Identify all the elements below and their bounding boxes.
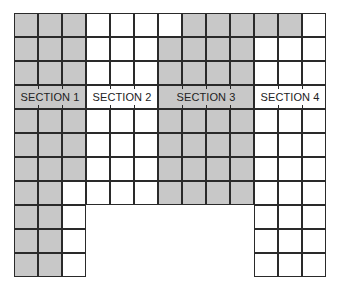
unshaded-cell <box>110 109 134 133</box>
shaded-cell <box>38 229 62 253</box>
unshaded-cell <box>302 205 326 229</box>
shaded-cell <box>230 157 254 181</box>
unshaded-cell <box>134 157 158 181</box>
shaded-cell <box>182 109 206 133</box>
grid-tick <box>62 105 64 109</box>
unshaded-cell <box>62 253 86 277</box>
unshaded-cell <box>62 181 86 205</box>
shaded-cell <box>230 133 254 157</box>
shaded-cell <box>38 253 62 277</box>
unshaded-cell <box>278 253 302 277</box>
unshaded-cell <box>254 253 278 277</box>
shaded-cell <box>230 37 254 61</box>
shaded-cell <box>206 181 230 205</box>
grid-tick <box>134 105 136 109</box>
shaded-cell <box>206 13 230 37</box>
unshaded-cell <box>302 157 326 181</box>
grid-tick <box>38 105 40 109</box>
unshaded-cell <box>110 157 134 181</box>
shaded-cell <box>38 13 62 37</box>
unshaded-cell <box>302 229 326 253</box>
shaded-cell <box>14 253 38 277</box>
section-2-label: SECTION 2 <box>86 85 158 109</box>
unshaded-cell <box>278 133 302 157</box>
shaded-cell <box>230 181 254 205</box>
unshaded-cell <box>158 13 182 37</box>
shaded-cell <box>14 37 38 61</box>
unshaded-cell <box>134 61 158 85</box>
grid-tick <box>278 105 280 109</box>
shaded-cell <box>38 37 62 61</box>
shaded-cell <box>182 13 206 37</box>
unshaded-cell <box>254 157 278 181</box>
shaded-cell <box>158 37 182 61</box>
shaded-cell <box>206 133 230 157</box>
unshaded-cell <box>254 133 278 157</box>
unshaded-cell <box>302 61 326 85</box>
unshaded-cell <box>278 205 302 229</box>
unshaded-cell <box>254 37 278 61</box>
grid-tick <box>206 85 208 89</box>
unshaded-cell <box>110 37 134 61</box>
grid-tick <box>206 105 208 109</box>
shaded-cell <box>206 61 230 85</box>
shaded-cell <box>14 157 38 181</box>
unshaded-cell <box>278 229 302 253</box>
unshaded-cell <box>110 181 134 205</box>
grid-tick <box>182 85 184 89</box>
unshaded-cell <box>134 13 158 37</box>
shaded-cell <box>38 181 62 205</box>
grid-tick <box>230 105 232 109</box>
shaded-cell <box>182 181 206 205</box>
grid-tick <box>302 105 304 109</box>
shaded-cell <box>62 13 86 37</box>
unshaded-cell <box>86 109 110 133</box>
grid-tick <box>230 85 232 89</box>
unshaded-cell <box>278 109 302 133</box>
unshaded-cell <box>86 13 110 37</box>
grid-tick <box>38 85 40 89</box>
grid-tick <box>110 105 112 109</box>
shaded-cell <box>62 133 86 157</box>
shaded-cell <box>158 157 182 181</box>
unshaded-cell <box>62 205 86 229</box>
shaded-cell <box>14 13 38 37</box>
unshaded-cell <box>302 37 326 61</box>
unshaded-cell <box>134 181 158 205</box>
unshaded-cell <box>302 109 326 133</box>
unshaded-cell <box>254 205 278 229</box>
shaded-cell <box>62 61 86 85</box>
unshaded-cell <box>302 253 326 277</box>
shaded-cell <box>230 109 254 133</box>
shaded-cell <box>14 133 38 157</box>
unshaded-cell <box>110 133 134 157</box>
shaded-cell <box>182 61 206 85</box>
shaded-cell <box>182 133 206 157</box>
shaded-cell <box>158 61 182 85</box>
shaded-cell <box>182 37 206 61</box>
shaded-cell <box>206 37 230 61</box>
shaded-cell <box>206 109 230 133</box>
unshaded-cell <box>86 37 110 61</box>
shaded-cell <box>62 157 86 181</box>
shaded-cell <box>230 13 254 37</box>
unshaded-cell <box>110 13 134 37</box>
unshaded-cell <box>278 181 302 205</box>
shaded-cell <box>158 109 182 133</box>
unshaded-cell <box>254 229 278 253</box>
unshaded-cell <box>278 157 302 181</box>
unshaded-cell <box>302 133 326 157</box>
shaded-cell <box>38 157 62 181</box>
shaded-cell <box>62 37 86 61</box>
shaded-cell <box>230 61 254 85</box>
unshaded-cell <box>302 13 326 37</box>
unshaded-cell <box>62 229 86 253</box>
shaded-cell <box>38 109 62 133</box>
shaded-cell <box>38 61 62 85</box>
unshaded-cell <box>254 181 278 205</box>
shaded-cell <box>38 133 62 157</box>
grid-tick <box>134 85 136 89</box>
shaded-cell <box>38 205 62 229</box>
unshaded-cell <box>254 109 278 133</box>
unshaded-cell <box>134 133 158 157</box>
